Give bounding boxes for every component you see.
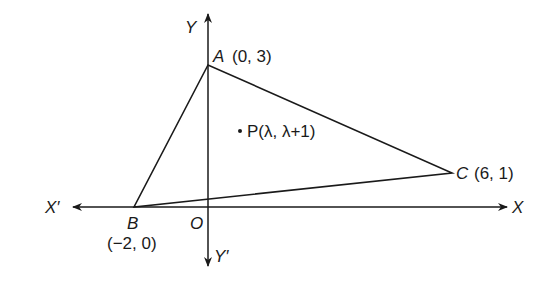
point-p-dot: [238, 129, 242, 133]
x-negative-axis-label: X′: [44, 198, 60, 217]
point-b-coords: (−2, 0): [107, 234, 157, 253]
origin-label: O: [190, 214, 203, 233]
x-axis-label: X: [511, 198, 524, 217]
y-axis-label: Y: [185, 18, 198, 37]
point-a-coords: (0, 3): [232, 47, 272, 66]
point-b-name: B: [127, 214, 138, 233]
y-negative-axis-label: Y′: [214, 247, 229, 266]
coordinate-diagram: Y Y′ X X′ O A (0, 3) B (−2, 0) C (6, 1) …: [0, 0, 545, 287]
point-c-coords: (6, 1): [474, 164, 514, 183]
point-p-label: P(λ, λ+1): [247, 122, 316, 141]
point-a-name: A: [212, 47, 224, 66]
point-c-name: C: [456, 164, 469, 183]
